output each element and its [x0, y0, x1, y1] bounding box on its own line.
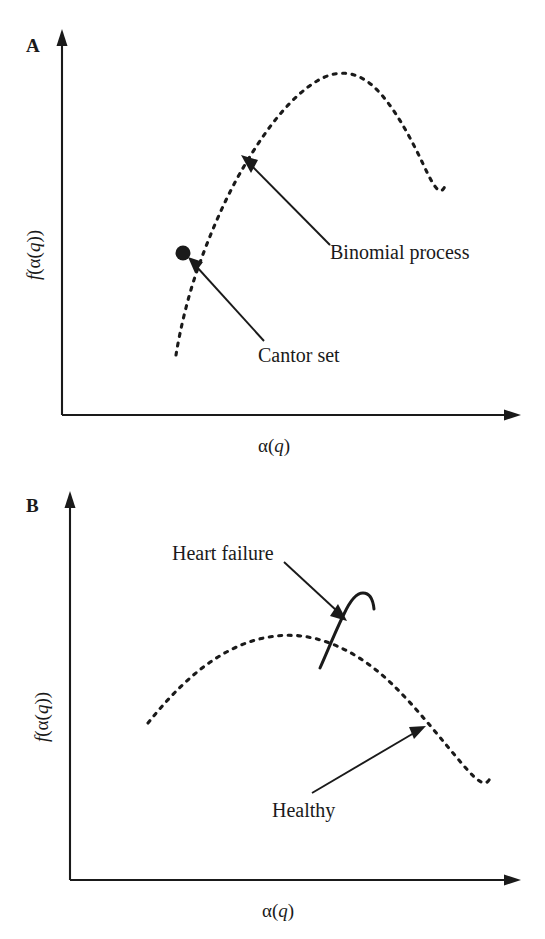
- panel-a-y-axis-arrowhead: [57, 29, 68, 46]
- panel-b-y-label-post: )): [31, 692, 53, 705]
- panel-a-x-label-pre: α(: [258, 435, 274, 457]
- panel-b-heart-failure-label: Heart failure: [172, 542, 274, 564]
- panel-a-cantor-label: Cantor set: [258, 344, 340, 366]
- panel-a: A Binomial process Cantor set α: [0, 0, 545, 470]
- panel-b-y-label-mid: (α(: [31, 714, 53, 737]
- panel-b-y-axis-arrowhead: [65, 491, 76, 508]
- panel-b-healthy-spectrum-curve: [148, 635, 490, 783]
- panel-a-y-label-var: q: [23, 242, 44, 252]
- panel-a-binomial-label: Binomial process: [330, 241, 470, 264]
- panel-b-healthy-label: Healthy: [272, 799, 335, 822]
- panel-a-y-axis-label: f(α(q)): [23, 230, 45, 280]
- multifractal-spectra-figure: A Binomial process Cantor set α: [0, 0, 545, 939]
- panel-b-x-label-pre: α(: [262, 900, 278, 922]
- panel-b-plot: B Heart failure Healthy α(q): [0, 470, 545, 939]
- panel-b-y-axis-label: f(α(q)): [31, 692, 53, 742]
- panel-a-letter: A: [26, 35, 40, 56]
- panel-a-x-axis-label: α(q): [258, 435, 290, 457]
- panel-b-heart-failure-leader-line: [284, 562, 337, 611]
- panel-a-binomial-leader-line: [251, 165, 330, 245]
- panel-a-cantor-leader-line: [196, 266, 264, 341]
- panel-b-x-label-post: ): [288, 900, 294, 922]
- panel-b: B Heart failure Healthy α(q): [0, 470, 545, 939]
- panel-b-heart-failure-curve: [320, 593, 374, 668]
- panel-a-y-label-post: )): [23, 230, 45, 243]
- panel-a-y-label-mid: (α(: [23, 252, 45, 275]
- panel-b-healthy-leader-line: [312, 733, 414, 793]
- panel-a-cantor-set-point: [176, 246, 191, 261]
- panel-a-x-axis-arrowhead: [504, 410, 521, 421]
- panel-b-letter: B: [26, 495, 39, 516]
- panel-b-x-label-var: q: [278, 900, 288, 921]
- panel-b-x-axis-arrowhead: [504, 875, 521, 886]
- panel-b-y-label-var: q: [31, 704, 52, 714]
- panel-b-x-axis-label: α(q): [262, 900, 294, 922]
- panel-a-plot: A Binomial process Cantor set α: [0, 0, 545, 470]
- panel-a-x-label-var: q: [274, 435, 284, 456]
- panel-b-healthy-arrowhead: [409, 726, 426, 739]
- panel-a-binomial-spectrum-curve: [176, 73, 445, 355]
- panel-a-x-label-post: ): [284, 435, 290, 457]
